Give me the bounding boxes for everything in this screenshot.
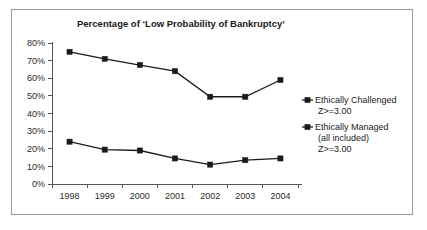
data-point [137, 148, 142, 153]
series-2 [67, 139, 283, 167]
x-axis-tick-label: 2004 [270, 191, 290, 201]
data-point [172, 69, 177, 74]
series-1 [67, 49, 283, 99]
x-axis-tick-label: 2001 [165, 191, 185, 201]
legend-entry-1: Ethically ChallengedZ>=3.00 [302, 95, 397, 116]
data-point [67, 139, 72, 144]
y-axis-tick-label: 50% [27, 91, 45, 101]
legend-label: (all included) [318, 133, 369, 143]
y-axis-tick-label: 0% [32, 179, 45, 189]
legend-label: Z>=3.00 [318, 144, 352, 154]
series-line [70, 52, 281, 97]
data-point [172, 156, 177, 161]
legend-entry-2: Ethically Managed(all included)Z>=3.00 [302, 122, 389, 154]
data-point [208, 162, 213, 167]
legend-marker [305, 124, 310, 129]
data-point [102, 56, 107, 61]
legend-label: Z>=3.00 [318, 106, 352, 116]
y-axis-tick-label: 60% [27, 73, 45, 83]
data-point [102, 147, 107, 152]
data-point [278, 156, 283, 161]
x-axis-tick-label: 1998 [60, 191, 80, 201]
y-axis-tick-label: 80% [27, 38, 45, 48]
legend-label: Ethically Managed [315, 122, 389, 132]
data-point [67, 49, 72, 54]
x-axis-tick-label: 2002 [200, 191, 220, 201]
y-axis-tick-label: 10% [27, 162, 45, 172]
y-axis-tick-label: 40% [27, 109, 45, 119]
x-axis-tick-label: 2000 [130, 191, 150, 201]
legend-marker [305, 97, 310, 102]
x-axis-tick-label: 2003 [235, 191, 255, 201]
data-point [137, 62, 142, 67]
chart-figure: Percentage of ‘Low Probability of Bankru… [0, 0, 427, 230]
x-axis-tick-label: 1999 [95, 191, 115, 201]
line-chart: Percentage of ‘Low Probability of Bankru… [0, 0, 427, 230]
data-point [208, 94, 213, 99]
data-point [278, 77, 283, 82]
data-point [243, 94, 248, 99]
chart-title: Percentage of ‘Low Probability of Bankru… [77, 18, 285, 29]
y-axis-tick-label: 20% [27, 144, 45, 154]
y-axis-tick-label: 70% [27, 56, 45, 66]
y-axis-tick-label: 30% [27, 126, 45, 136]
legend-label: Ethically Challenged [315, 95, 397, 105]
data-point [243, 158, 248, 163]
